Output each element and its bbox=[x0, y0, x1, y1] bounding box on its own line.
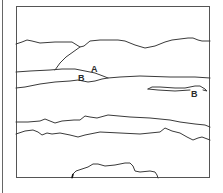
middle-layer-line-1 bbox=[16, 115, 210, 127]
bottom-mound-outline bbox=[72, 163, 158, 178]
diagram-frame bbox=[17, 7, 210, 178]
mound-edge-mark bbox=[72, 174, 73, 178]
hill-slope-line bbox=[55, 47, 80, 70]
right-lens-outline bbox=[148, 86, 207, 91]
top-ridge-line bbox=[16, 38, 210, 48]
label-a: A bbox=[91, 64, 98, 74]
label-b-left: B bbox=[78, 73, 85, 83]
label-b-right: B bbox=[191, 89, 198, 99]
lens-lower-boundary bbox=[16, 78, 108, 88]
cross-section-diagram: A B B bbox=[0, 0, 223, 193]
upper-layer-boundary bbox=[16, 69, 210, 78]
middle-layer-line-2 bbox=[16, 128, 210, 140]
